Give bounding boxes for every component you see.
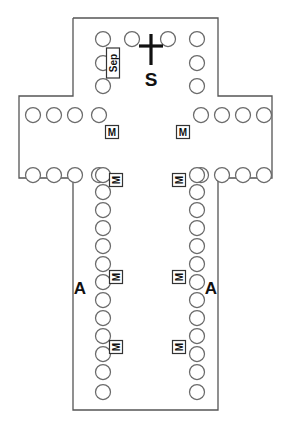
nave-column (190, 365, 205, 380)
nave-column (96, 311, 111, 326)
nave-column (190, 275, 205, 290)
sanctuary-label-s: S (145, 69, 158, 90)
transept-column (215, 168, 230, 183)
transept-column (47, 108, 62, 123)
church-floor-plan: S Sep AA MMMMMMMM (0, 0, 291, 428)
chancel-column (125, 32, 140, 47)
aisle-label-a: A (74, 279, 86, 298)
nave-column (96, 275, 111, 290)
nave-column (96, 203, 111, 218)
mass-label-box-group: MMMMMMMM (106, 126, 190, 354)
transept-column (68, 168, 83, 183)
nave-column (190, 239, 205, 254)
chancel-column (190, 32, 205, 47)
transept-column (26, 168, 41, 183)
mass-box-label: M (174, 273, 185, 281)
nave-column (96, 329, 111, 344)
nave-right-column-group (190, 168, 205, 400)
mass-box-label: M (174, 176, 185, 184)
mass-box-label: M (108, 127, 116, 138)
nave-column (190, 257, 205, 272)
mass-box-label: M (111, 343, 122, 351)
transept-column (92, 108, 107, 123)
left-transept-column-group (26, 108, 107, 183)
sep-box-label: Sep (108, 54, 119, 72)
transept-column (215, 108, 230, 123)
nave-column (190, 311, 205, 326)
transept-column (257, 168, 272, 183)
nave-column (190, 221, 205, 236)
mass-box-label: M (111, 273, 122, 281)
nave-column (190, 385, 205, 400)
nave-column (96, 221, 111, 236)
nave-column (190, 203, 205, 218)
nave-column (96, 347, 111, 362)
nave-column (190, 185, 205, 200)
transept-column (26, 108, 41, 123)
transept-column (194, 108, 209, 123)
nave-column (96, 293, 111, 308)
nave-column (96, 239, 111, 254)
nave-left-column-group (96, 168, 111, 400)
sep-label-box: Sep (107, 48, 120, 78)
chancel-column (96, 79, 111, 94)
mass-box-label: M (179, 127, 187, 138)
mass-box-label: M (111, 176, 122, 184)
nave-column (190, 168, 205, 183)
nave-column (96, 185, 111, 200)
nave-column (96, 365, 111, 380)
right-transept-column-group (194, 108, 272, 183)
chancel-column (190, 79, 205, 94)
nave-column (190, 329, 205, 344)
floor-plan-canvas: S Sep AA MMMMMMMM (0, 0, 291, 428)
aisle-label-a: A (205, 279, 217, 298)
transept-column (236, 168, 251, 183)
mass-box-label: M (174, 343, 185, 351)
nave-column (96, 385, 111, 400)
chancel-column (190, 56, 205, 71)
nave-column (190, 347, 205, 362)
nave-column (96, 257, 111, 272)
chancel-column (161, 32, 176, 47)
chancel-column (96, 32, 111, 47)
transept-column (47, 168, 62, 183)
nave-column (96, 168, 111, 183)
transept-column (68, 108, 83, 123)
transept-column (236, 108, 251, 123)
transept-column (257, 108, 272, 123)
altar-cross-icon (139, 34, 163, 65)
nave-column (190, 293, 205, 308)
